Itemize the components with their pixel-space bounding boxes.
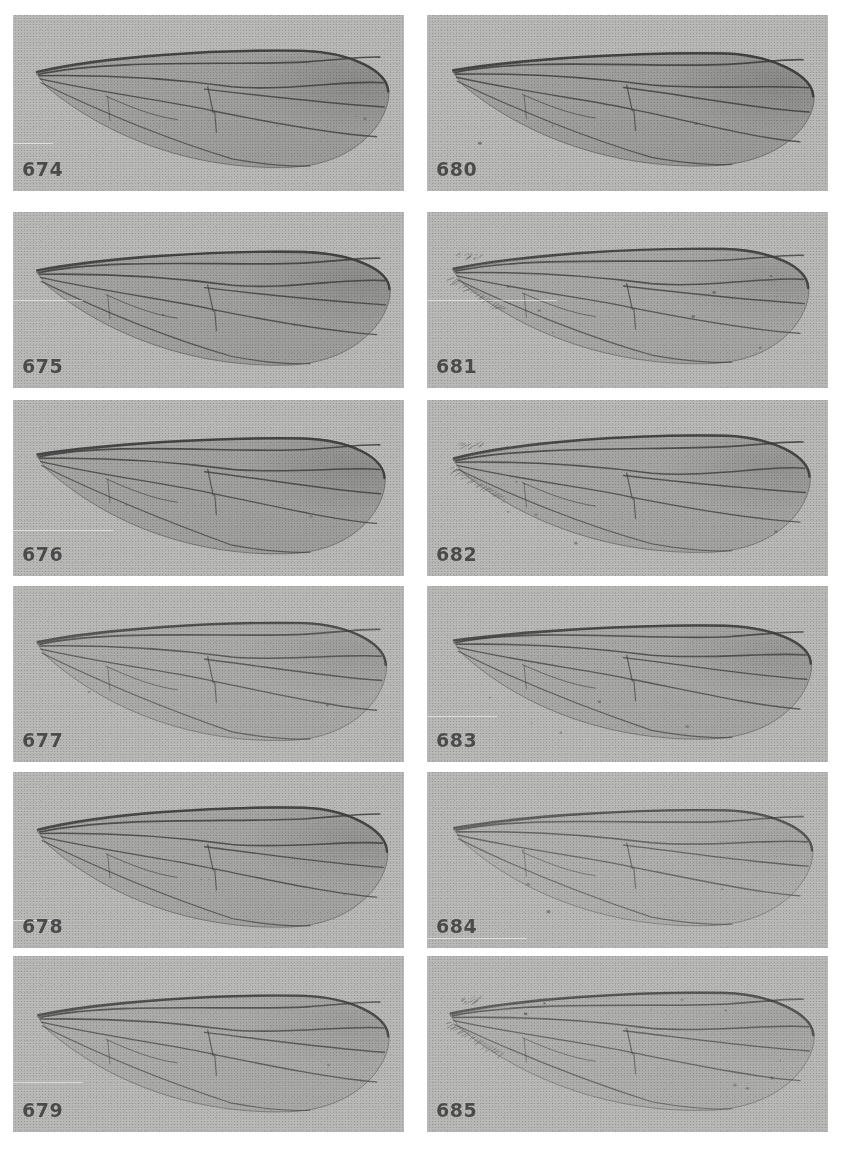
wing-illustration (13, 400, 404, 576)
panel-number-label: 682 (436, 545, 477, 564)
panel-number-label: 684 (436, 917, 477, 936)
wing-illustration (427, 956, 828, 1132)
panel-number-label: 681 (436, 357, 477, 376)
panel-number-label: 676 (22, 545, 63, 564)
emulsion-scratch (13, 300, 83, 301)
wing-panel-682: 682 (427, 400, 828, 576)
emulsion-scratch (13, 1082, 83, 1083)
wing-plate: 674 (0, 0, 851, 1156)
panel-number-label: 675 (22, 357, 63, 376)
emulsion-scratch (13, 530, 113, 531)
emulsion-scratch (13, 143, 53, 144)
panel-number-label: 674 (22, 160, 63, 179)
wing-panel-680: 680 (427, 15, 828, 191)
wing-illustration (13, 586, 404, 762)
wing-illustration (427, 772, 828, 948)
wing-illustration (427, 586, 828, 762)
wing-panel-676: 676 (13, 400, 404, 576)
wing-panel-685: 685 (427, 956, 828, 1132)
wing-illustration (13, 15, 404, 191)
wing-illustration (427, 15, 828, 191)
panel-number-label: 677 (22, 731, 63, 750)
panel-number-label: 683 (436, 731, 477, 750)
panel-number-label: 680 (436, 160, 477, 179)
wing-panel-675: 675 (13, 212, 404, 388)
wing-panel-674: 674 (13, 15, 404, 191)
wing-panel-677: 677 (13, 586, 404, 762)
panel-number-label: 678 (22, 917, 63, 936)
wing-illustration (427, 400, 828, 576)
emulsion-scratch (427, 938, 527, 939)
wing-panel-684: 684 (427, 772, 828, 948)
wing-panel-683: 683 (427, 586, 828, 762)
panel-number-label: 679 (22, 1101, 63, 1120)
wing-illustration (13, 772, 404, 948)
emulsion-scratch (427, 716, 497, 717)
wing-panel-678: 678 (13, 772, 404, 948)
wing-illustration (13, 956, 404, 1132)
emulsion-scratch (427, 300, 557, 301)
panel-number-label: 685 (436, 1101, 477, 1120)
wing-panel-681: 681 (427, 212, 828, 388)
wing-panel-679: 679 (13, 956, 404, 1132)
